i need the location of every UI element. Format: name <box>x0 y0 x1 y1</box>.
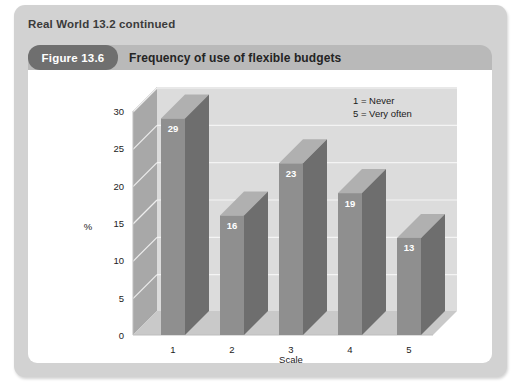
chart-left-wall <box>133 87 157 335</box>
chart-panel: 29 16 23 19 <box>28 70 492 363</box>
y-tick-25: 25 <box>113 143 124 154</box>
bar-1: 29 <box>161 95 209 336</box>
x-axis-title: Scale <box>279 354 303 363</box>
figure-title-bar: Figure 13.6 Frequency of use of flexible… <box>28 45 492 70</box>
bar-3: 23 <box>279 139 327 335</box>
y-axis-ticks: 30 25 20 15 10 5 0 <box>113 106 124 341</box>
y-tick-0: 0 <box>119 330 124 341</box>
y-axis-title: % <box>84 221 93 232</box>
x-tick-4: 4 <box>347 344 352 355</box>
bar-chart-3d: 29 16 23 19 <box>28 70 492 363</box>
bar-value-4: 19 <box>345 198 356 209</box>
y-tick-30: 30 <box>113 106 124 117</box>
bar-2: 16 <box>220 192 268 336</box>
y-tick-20: 20 <box>113 181 124 192</box>
bar-value-2: 16 <box>227 220 238 231</box>
x-tick-2: 2 <box>229 344 234 355</box>
bar-value-5: 13 <box>404 242 415 253</box>
y-tick-10: 10 <box>113 255 124 266</box>
y-tick-15: 15 <box>113 218 124 229</box>
figure-title: Frequency of use of flexible budgets <box>129 45 341 70</box>
real-world-heading: Real World 13.2 continued <box>28 18 175 30</box>
bar-value-1: 29 <box>168 123 179 134</box>
legend-line-1: 1 = Never <box>353 95 394 106</box>
bar-5: 13 <box>397 214 445 335</box>
x-tick-1: 1 <box>170 344 175 355</box>
y-tick-5: 5 <box>119 293 124 304</box>
figure-number-label: Figure 13.6 <box>42 52 105 64</box>
figure-number-badge: Figure 13.6 <box>28 45 118 70</box>
bar-4: 19 <box>338 169 386 335</box>
bar-value-3: 23 <box>286 168 297 179</box>
real-world-card: Real World 13.2 continued Figure 13.6 Fr… <box>14 5 507 377</box>
legend-line-2: 5 = Very often <box>353 108 412 119</box>
x-tick-5: 5 <box>406 344 411 355</box>
